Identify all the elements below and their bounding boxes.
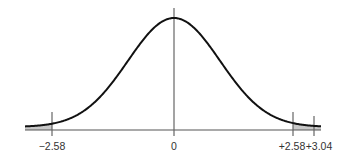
label-pos-2.58: +2.58 [279, 140, 306, 152]
label-zero: 0 [171, 140, 177, 152]
label-neg-2.58: −2.58 [39, 140, 66, 152]
label-pos-3.04: +3.04 [306, 140, 333, 152]
bell-curve [25, 18, 321, 126]
normal-curve-diagram: −2.58 0 +2.58 +3.04 [0, 0, 343, 162]
